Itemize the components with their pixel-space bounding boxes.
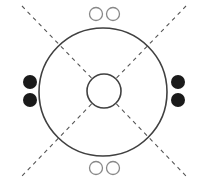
- seat-top-right-empty: [107, 8, 120, 21]
- seat-top-left-empty: [90, 8, 103, 21]
- seat-left-bottom-filled: [23, 93, 37, 107]
- seat-bottom-right-empty: [107, 162, 120, 175]
- seat-left-top-filled: [23, 75, 37, 89]
- seat-right-bottom-filled: [171, 93, 185, 107]
- inner-circle: [87, 74, 121, 108]
- seat-right-top-filled: [171, 75, 185, 89]
- table-diagram: [0, 0, 197, 184]
- seat-bottom-left-empty: [90, 162, 103, 175]
